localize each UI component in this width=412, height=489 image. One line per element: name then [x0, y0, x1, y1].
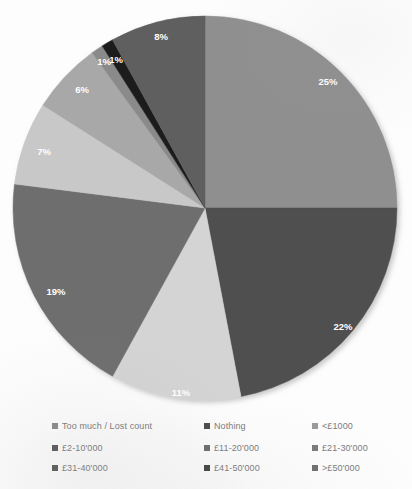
pie-slice-value-label: 25%	[318, 76, 338, 87]
legend-item-nothing[interactable]: Nothing	[204, 422, 312, 431]
legend-swatch-icon	[52, 445, 58, 451]
chart-legend: Too much / Lost count Nothing <£1000 £2-…	[0, 414, 412, 489]
pie-chart: 25%22%11%19%7%6%1%1%8%	[0, 0, 412, 412]
pie-slice-value-label: 11%	[172, 387, 191, 398]
legend-label: Nothing	[214, 422, 246, 431]
legend-label: <£1000	[322, 422, 353, 431]
legend-item-31-40000[interactable]: £31-40'000	[52, 464, 204, 473]
legend-label: £2-10'000	[62, 444, 103, 453]
legend-label: £31-40'000	[62, 464, 108, 473]
pie-slice-value-label: 1%	[109, 54, 123, 65]
pie-slice-value-label: 7%	[37, 146, 51, 157]
legend-swatch-icon	[52, 465, 58, 471]
pie-slice-group	[13, 16, 397, 400]
legend-label: £41-50'000	[214, 464, 260, 473]
legend-item-41-50000[interactable]: £41-50'000	[204, 464, 312, 473]
legend-swatch-icon	[52, 423, 58, 429]
legend-swatch-icon	[204, 445, 210, 451]
pie-chart-svg: 25%22%11%19%7%6%1%1%8%	[0, 0, 412, 412]
legend-item-over-50000[interactable]: >£50'000	[312, 464, 412, 473]
legend-swatch-icon	[204, 423, 210, 429]
legend-swatch-icon	[312, 423, 318, 429]
legend-label: £11-20'000	[214, 444, 259, 453]
legend-item-2-10000[interactable]: £2-10'000	[52, 444, 204, 453]
pie-slice-value-label: 6%	[75, 84, 89, 95]
legend-item-11-20000[interactable]: £11-20'000	[204, 444, 312, 453]
pie-slice-value-label: 22%	[333, 321, 353, 332]
legend-label: >£50'000	[322, 464, 360, 473]
pie-slice-value-label: 19%	[46, 286, 66, 297]
legend-item-under-1000[interactable]: <£1000	[312, 422, 412, 431]
pie-slice-value-label: 1%	[97, 56, 111, 67]
pie-slice[interactable]	[205, 16, 397, 208]
legend-item-21-30000[interactable]: £21-30'000	[312, 444, 412, 453]
legend-item-too-much-lost-count[interactable]: Too much / Lost count	[52, 422, 204, 431]
legend-swatch-icon	[312, 445, 318, 451]
legend-label: Too much / Lost count	[62, 422, 152, 431]
legend-label: £21-30'000	[322, 444, 368, 453]
pie-slice-value-label: 8%	[154, 31, 168, 42]
legend-swatch-icon	[204, 465, 210, 471]
legend-swatch-icon	[312, 465, 318, 471]
